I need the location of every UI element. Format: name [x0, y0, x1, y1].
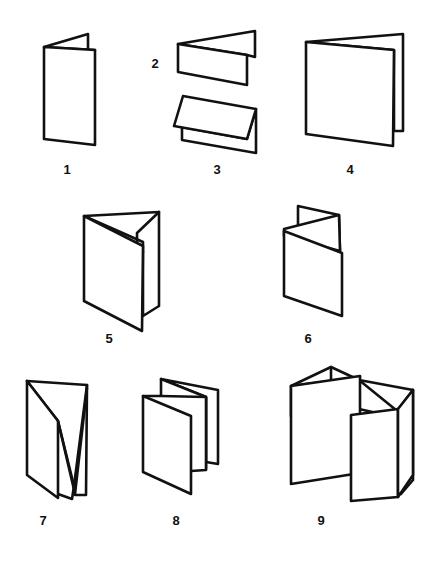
figure-4-single-fold-square [306, 34, 403, 146]
figure-9-gate-fold [291, 367, 413, 501]
figure-1-single-fold-portrait [44, 34, 95, 145]
folding-diagram [0, 0, 439, 563]
figure-5-roll-fold [84, 212, 159, 331]
figure-2-single-fold-landscape [178, 31, 255, 85]
figure-label-5: 5 [105, 332, 112, 345]
figure-label-4: 4 [346, 163, 353, 176]
figure-3-tent-fold [174, 96, 256, 153]
figure-label-1: 1 [63, 163, 70, 176]
figure-7-roll-fold-four-panel [27, 381, 87, 499]
figure-label-6: 6 [304, 332, 311, 345]
figure-6-z-fold [284, 206, 342, 316]
figure-label-2: 2 [151, 57, 158, 70]
figure-label-7: 7 [39, 514, 46, 527]
figure-label-3: 3 [213, 163, 220, 176]
figure-label-9: 9 [317, 514, 324, 527]
figure-label-8: 8 [172, 514, 179, 527]
figure-8-accordion-fold [143, 379, 218, 494]
